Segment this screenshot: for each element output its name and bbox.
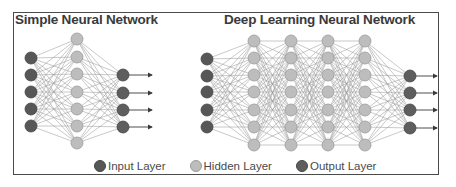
hidden-node [285, 139, 297, 151]
hidden-node [322, 86, 334, 98]
edge [77, 93, 123, 109]
hidden-node [71, 51, 83, 63]
edge [31, 39, 77, 58]
output-node [404, 104, 416, 116]
hidden-node [359, 139, 371, 151]
output-node [117, 87, 129, 99]
edge [365, 58, 410, 76]
edge [207, 76, 254, 145]
legend-label-hidden: Hidden Layer [204, 160, 272, 172]
output-node [117, 69, 129, 81]
hidden-node [71, 120, 83, 132]
output-node [404, 122, 416, 134]
deep-network-title: Deep Learning Neural Network [224, 12, 415, 27]
input-node [201, 86, 213, 98]
edge [365, 128, 410, 145]
edge [77, 93, 123, 126]
diagram-canvas: Simple Neural Network Deep Learning Neur… [0, 0, 456, 187]
legend: Input Layer Hidden Layer Output Layer [94, 160, 400, 172]
legend-label-output: Output Layer [310, 160, 376, 172]
edge [31, 126, 77, 143]
edge [365, 110, 410, 145]
input-node [201, 104, 213, 116]
hidden-node [71, 86, 83, 98]
hidden-node [248, 139, 260, 151]
hidden-node [248, 121, 260, 133]
hidden-node [248, 35, 260, 47]
hidden-node [248, 69, 260, 81]
edge [207, 127, 254, 145]
simple-network-title: Simple Neural Network [15, 12, 158, 27]
hidden-node [71, 33, 83, 45]
hidden-node [248, 52, 260, 64]
hidden-node [322, 52, 334, 64]
input-node [201, 70, 213, 82]
edge [77, 75, 123, 92]
hidden-node [359, 69, 371, 81]
legend-item-input: Input Layer [94, 160, 166, 172]
edge [77, 57, 123, 75]
hidden-node [71, 103, 83, 115]
hidden-node [248, 104, 260, 116]
legend-label-input: Input Layer [108, 160, 166, 172]
hidden-node [359, 86, 371, 98]
legend-item-output: Output Layer [296, 160, 376, 172]
hidden-node [285, 35, 297, 47]
output-node [404, 70, 416, 82]
hidden-node [285, 121, 297, 133]
input-node [25, 52, 37, 64]
hidden-node [359, 52, 371, 64]
output-node [117, 104, 129, 116]
hidden-node [285, 104, 297, 116]
output-node [404, 87, 416, 99]
hidden-node [248, 86, 260, 98]
output-node [117, 121, 129, 133]
hidden-node [322, 121, 334, 133]
hidden-node [322, 139, 334, 151]
hidden-node [359, 121, 371, 133]
hidden-layer-dot-icon [190, 160, 202, 172]
input-node [201, 121, 213, 133]
deep-network-edges [207, 41, 410, 145]
input-node [25, 86, 37, 98]
legend-item-hidden: Hidden Layer [190, 160, 272, 172]
hidden-node [285, 86, 297, 98]
edge [207, 110, 254, 145]
network-graph [0, 0, 456, 187]
edge [365, 41, 410, 76]
hidden-node [322, 104, 334, 116]
edge [207, 41, 254, 59]
hidden-node [71, 68, 83, 80]
input-node [25, 103, 37, 115]
hidden-node [322, 69, 334, 81]
hidden-node [71, 137, 83, 149]
edge [77, 110, 123, 143]
edge [207, 41, 254, 76]
input-layer-dot-icon [94, 160, 106, 172]
input-node [201, 53, 213, 65]
output-layer-dot-icon [296, 160, 308, 172]
hidden-node [285, 52, 297, 64]
input-node [25, 120, 37, 132]
edge [365, 76, 410, 145]
edge [77, 127, 123, 143]
hidden-node [359, 35, 371, 47]
hidden-node [322, 35, 334, 47]
edge [77, 39, 123, 75]
input-node [25, 69, 37, 81]
edge [207, 41, 254, 110]
hidden-node [359, 104, 371, 116]
hidden-node [285, 69, 297, 81]
